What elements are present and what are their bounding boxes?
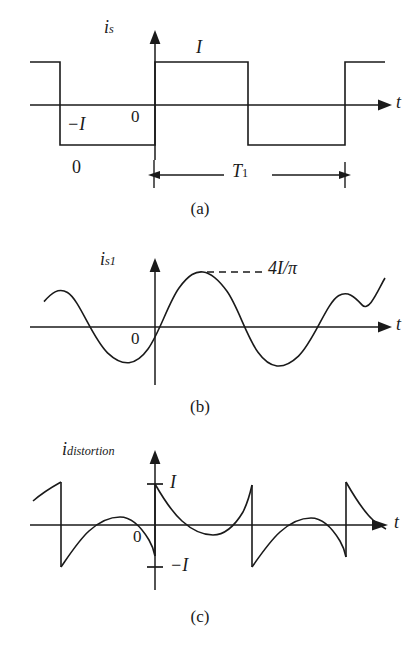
panel-a-level-low-label: −I [67,115,85,133]
panel-a-y-axis-label: is [104,18,114,36]
panel-b-i-axis [150,258,161,385]
panel-b-waveform [44,272,385,366]
panel-c-y-axis-label: idistortion [62,440,115,458]
panel-a-origin-label: 0 [131,108,140,125]
panel-b-caption: (b) [160,398,240,415]
panel-b-x-axis-label: t [396,315,401,333]
panel-a-x-axis-label: t [396,93,401,111]
panel-b-peak-label: 4I/π [268,259,297,277]
panel-c-origin-label: 0 [133,528,142,545]
panel-b-origin-label: 0 [131,330,140,347]
panel-a-left-region-label: 0 [72,158,81,176]
panel-c-t-axis [30,520,388,531]
panel-a-t-axis [30,100,392,111]
panel-a-period-label: T1 [232,162,248,180]
panel-a-level-high-label: I [196,38,202,56]
panel-b-fundamental: is1 t 0 4I/π (b) [0,230,417,430]
panel-c-distortion: idistortion t 0 I −I (c) [0,430,417,647]
panel-b-t-axis [30,322,392,333]
panel-a-period-dimension [148,160,351,188]
panel-b-y-axis-label: is1 [100,250,116,268]
panel-c-tick-positive-label: I [170,473,176,491]
panel-c-x-axis-label: t [394,513,399,531]
panel-a-caption: (a) [160,200,240,217]
panel-a-square-wave: is t 0 I −I 0 T1 (a) [0,0,417,230]
panel-c-tick-negative-label: −I [170,556,188,574]
panel-c-caption: (c) [160,608,240,625]
